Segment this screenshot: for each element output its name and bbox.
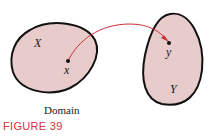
figure-caption: FIGURE 39 bbox=[3, 120, 63, 132]
set-label-X: X bbox=[34, 36, 41, 51]
domain-set-X bbox=[11, 23, 97, 92]
point-label-x: x bbox=[64, 63, 69, 78]
domain-label: Domain bbox=[44, 104, 79, 116]
point-label-y: y bbox=[166, 45, 171, 60]
diagram-canvas bbox=[0, 0, 213, 137]
set-label-Y: Y bbox=[170, 82, 177, 97]
